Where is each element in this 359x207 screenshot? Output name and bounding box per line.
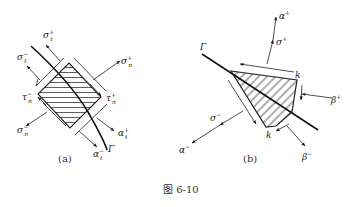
label-k-top: k	[295, 70, 300, 80]
label-beta-plus: β+	[330, 93, 341, 105]
label-k-bottom: k	[266, 130, 271, 140]
label-alpha-minus: α−	[179, 143, 190, 155]
label-alpha-t-plus: α+t	[118, 126, 129, 140]
label-beta-minus: β−	[301, 150, 312, 162]
label-sigma-t-plus: σ+t	[43, 28, 54, 42]
panel-b-label: (b)	[243, 153, 257, 164]
panel-b: α+ σ+ σ− α− β+ β− k k Γ (b)	[179, 9, 341, 164]
label-sigma-minus: σ−	[210, 111, 221, 123]
label-tau-n-minus: τ−n	[22, 90, 32, 104]
label-sigma-n-plus: σ+n	[121, 54, 132, 68]
figure-caption: 图 6-10	[163, 184, 199, 195]
panel-a: σ+t σ−t σ+n σ−n τ−n τ+n α+t α−t Γ (a)	[17, 28, 132, 164]
label-tau-n-plus: τ+n	[106, 91, 116, 105]
figure-canvas: σ+t σ−t σ+n σ−n τ−n τ+n α+t α−t Γ (a)	[0, 0, 359, 207]
label-sigma-t-minus: σ−t	[17, 50, 28, 64]
gamma-line-b	[202, 54, 318, 130]
label-gamma-a: Γ	[107, 144, 115, 154]
label-alpha-t-minus: α−t	[93, 147, 104, 161]
label-alpha-plus: α+	[279, 9, 290, 21]
label-sigma-n-minus: σ−n	[17, 123, 28, 137]
panel-a-label: (a)	[58, 153, 72, 164]
label-sigma-plus: σ+	[276, 35, 287, 47]
label-gamma-b: Γ	[199, 42, 207, 52]
